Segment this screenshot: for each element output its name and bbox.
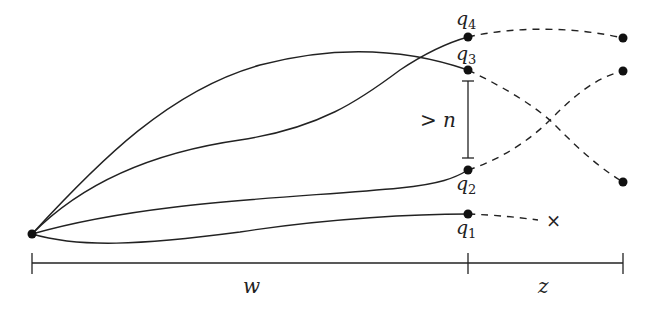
q4-node [464,33,473,42]
right-mid-node [619,67,628,76]
label-q1: q 1 [456,216,476,241]
automaton-run-diagram: × > n q 4 q 3 q 2 q 1 w z [0,0,648,312]
svg-text:q: q [456,216,468,238]
right-low-node [619,178,628,187]
z-label: z [537,274,549,298]
gap-label: > n [420,108,456,132]
label-q2: q 2 [456,172,476,197]
dashed-q2-to-mid [468,71,623,170]
dashed-q4-to-top [468,29,623,38]
run-to-q4 [32,37,468,234]
label-q3: q 3 [456,42,476,67]
w-label: w [243,274,260,298]
svg-text:q: q [456,42,468,64]
svg-text:1: 1 [468,226,476,241]
origin-node [28,230,37,239]
label-q4: q 4 [456,7,476,32]
dashed-q3-to-low [468,70,623,182]
svg-text:q: q [456,172,468,194]
run-to-q3 [32,52,468,234]
svg-text:2: 2 [468,182,476,197]
svg-text:q: q [456,7,468,29]
svg-text:3: 3 [468,52,476,67]
right-top-node [619,34,628,43]
run-to-q2 [32,170,468,234]
dashed-q1-to-x [468,214,538,220]
dead-end-cross-icon: × [546,210,561,231]
svg-text:4: 4 [468,17,476,32]
